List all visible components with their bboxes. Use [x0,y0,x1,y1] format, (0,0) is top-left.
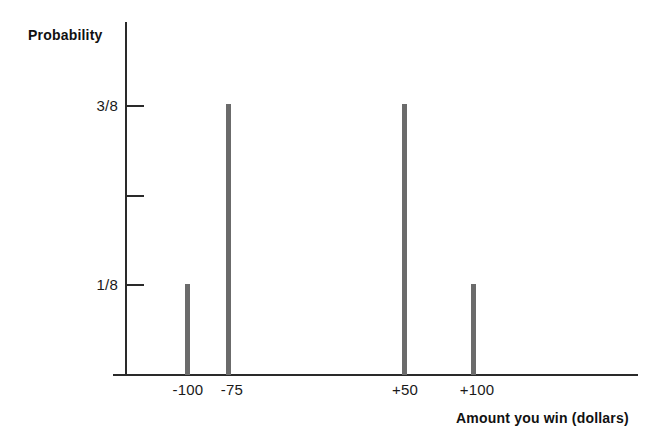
x-axis-title: Amount you win (dollars) [456,410,629,426]
x-tick-label-plus-100: +100 [460,381,495,398]
y-tick-mark-2-8 [127,195,144,197]
y-tick-label-wrap-1-8: 1/8 [62,276,118,294]
probability-bar-chart: Probability 3/8 1/8 -100 -75 +50 +100 Am… [0,0,664,446]
x-axis-line [113,374,638,376]
y-tick-mark-1-8 [127,284,144,286]
bar-plus-50 [402,104,407,375]
y-tick-label-1-8: 1/8 [70,276,118,293]
bar-plus-100 [471,284,476,375]
y-axis-line [125,22,127,376]
y-tick-label-wrap-3-8: 3/8 [62,97,118,115]
x-tick-label-plus-50: +50 [392,381,418,398]
x-tick-label-minus-100: -100 [173,381,204,398]
bar-minus-100 [185,284,190,375]
y-tick-mark-3-8 [127,105,144,107]
y-axis-title: Probability [28,27,103,43]
bar-minus-75 [226,104,231,375]
y-tick-label-wrap-2-8 [62,187,118,205]
x-tick-label-minus-75: -75 [221,381,243,398]
y-tick-label-3-8: 3/8 [70,97,118,114]
